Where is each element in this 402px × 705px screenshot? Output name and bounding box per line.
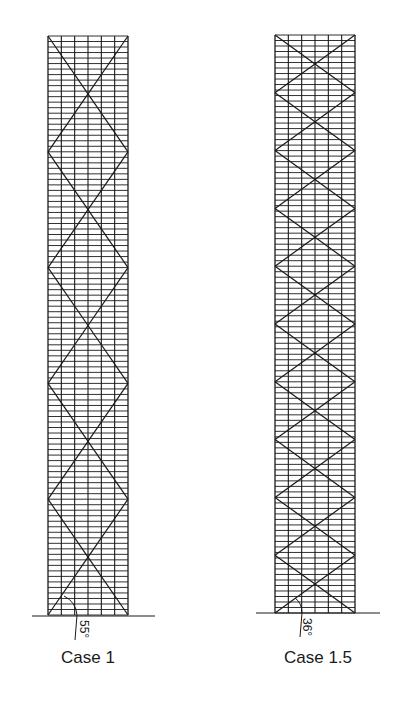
diagonal-member [315,497,355,526]
tower-case-1 [32,36,155,640]
caption-case-1-5: Case 1.5 [284,648,352,668]
angle-label-case-1-5: 36° [300,618,314,636]
diagonal-member [315,237,355,266]
angle-arc [295,598,302,613]
diagonal-member [275,382,315,411]
diagonal-member [315,584,355,613]
angle-label-case-1: 55° [77,620,91,638]
diagonal-member [275,266,315,295]
diagonal-member [315,151,355,180]
diagonal-member [315,382,355,411]
diagonal-member [275,469,315,498]
diagonal-member [315,353,355,382]
tower-case-1-5 [256,35,380,637]
diagonal-member [315,35,355,64]
diagonal-member [315,469,355,498]
diagonal-member [275,237,315,266]
diagrid-drawing [0,0,402,705]
diagonal-member [315,122,355,151]
caption-case-1: Case 1 [61,648,115,668]
diagonal-member [275,497,315,526]
diagonal-member [275,151,315,180]
diagonal-member [275,353,315,382]
diagonal-member [275,35,315,64]
diagonal-member [275,122,315,151]
diagonal-member [315,266,355,295]
diagrid-figure: Case 1 55° Case 1.5 36° [0,0,402,705]
